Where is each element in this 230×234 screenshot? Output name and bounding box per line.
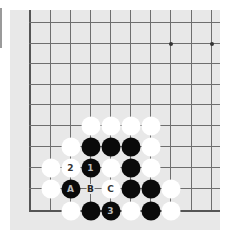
white-stone[interactable] — [101, 158, 120, 177]
white-stone[interactable] — [141, 137, 160, 156]
black-stone[interactable] — [81, 201, 100, 220]
black-stone[interactable] — [81, 137, 100, 156]
grid-hline — [29, 84, 220, 85]
white-stone[interactable] — [81, 116, 100, 135]
black-stone[interactable]: 3 — [101, 201, 120, 220]
black-stone[interactable] — [101, 137, 120, 156]
white-stone[interactable] — [141, 158, 160, 177]
grid-vline — [29, 10, 31, 211]
white-stone[interactable] — [101, 116, 120, 135]
black-stone[interactable] — [121, 158, 140, 177]
grid-hline — [29, 43, 220, 44]
star-point — [169, 42, 173, 46]
grid-vline — [90, 10, 91, 211]
white-stone[interactable]: C — [101, 179, 120, 198]
white-stone[interactable] — [121, 201, 140, 220]
black-stone[interactable]: A — [61, 179, 80, 198]
grid-hline — [29, 104, 220, 105]
black-stone[interactable] — [121, 137, 140, 156]
white-stone[interactable] — [161, 179, 180, 198]
grid-vline — [191, 10, 192, 211]
white-stone[interactable] — [161, 201, 180, 220]
black-stone[interactable]: 1 — [81, 158, 100, 177]
white-stone[interactable]: 2 — [61, 158, 80, 177]
grid-vline — [211, 10, 212, 211]
black-stone[interactable] — [141, 201, 160, 220]
white-stone[interactable] — [61, 201, 80, 220]
point-label: B — [86, 184, 95, 194]
grid-hline — [29, 22, 220, 23]
white-stone[interactable] — [61, 137, 80, 156]
white-stone[interactable] — [141, 116, 160, 135]
white-stone[interactable] — [41, 179, 60, 198]
black-stone[interactable] — [121, 179, 140, 198]
black-stone[interactable] — [141, 179, 160, 198]
grid-hline — [29, 63, 220, 64]
white-stone[interactable] — [41, 158, 60, 177]
white-stone[interactable] — [121, 116, 140, 135]
side-bar — [0, 8, 2, 48]
star-point — [210, 42, 214, 46]
